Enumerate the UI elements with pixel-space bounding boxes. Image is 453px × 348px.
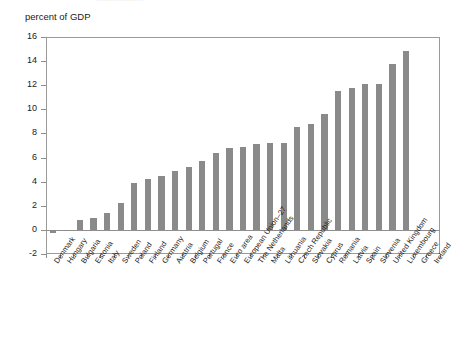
y-axis-tick-label: 16 <box>27 31 37 41</box>
bar <box>308 124 314 230</box>
y-axis-tick-label: 10 <box>27 103 37 113</box>
y-axis-tick-label: 8 <box>32 127 37 137</box>
bar <box>389 64 395 230</box>
bar <box>335 91 341 230</box>
bar <box>226 148 232 230</box>
bar <box>104 213 110 230</box>
y-axis-unit-label: percent of GDP <box>25 11 90 22</box>
bar <box>321 114 327 230</box>
bar <box>213 153 219 230</box>
bars-group <box>46 37 440 254</box>
y-axis-tick-label: 4 <box>32 176 37 186</box>
x-axis-tick-mark <box>46 254 47 258</box>
bar <box>362 84 368 230</box>
y-axis-tick-label: 14 <box>27 55 37 65</box>
bar <box>90 218 96 230</box>
bar <box>77 220 83 230</box>
bar <box>131 183 137 230</box>
bar <box>118 203 124 230</box>
bar <box>158 176 164 230</box>
cropped-header-text: ······················ <box>95 0 345 4</box>
y-axis-tick-label: 2 <box>32 200 37 210</box>
bar <box>294 127 300 229</box>
bar <box>186 167 192 230</box>
bar <box>253 144 259 230</box>
bar <box>240 147 246 230</box>
bar <box>63 230 69 231</box>
bar <box>403 51 409 229</box>
bar <box>145 179 151 230</box>
bar <box>376 84 382 230</box>
bar <box>50 230 56 234</box>
y-axis-tick-label: 0 <box>32 224 37 234</box>
y-axis-tick-label: 12 <box>27 79 37 89</box>
bar <box>199 161 205 230</box>
y-axis-tick-label: -2 <box>29 248 37 258</box>
bar <box>172 171 178 230</box>
bar <box>349 88 355 230</box>
y-axis-tick-label: 6 <box>32 152 37 162</box>
